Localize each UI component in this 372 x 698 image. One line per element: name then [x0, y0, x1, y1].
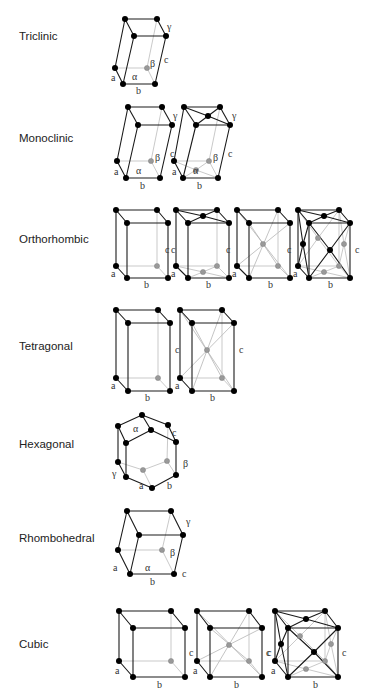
hidden-atom [200, 269, 205, 274]
atom [125, 104, 131, 110]
axis-label: a [232, 268, 237, 279]
atom [131, 33, 137, 39]
atom [116, 658, 122, 664]
atom [303, 616, 309, 622]
bravais-lattice-diagram: abαβcγabαβcγabαβcγabcabcabcabccabcabcαcγ… [0, 0, 372, 698]
axis-label: b [328, 279, 333, 290]
hidden-atom [144, 65, 149, 70]
atom [182, 625, 188, 631]
atom [171, 158, 177, 164]
atom [177, 307, 183, 313]
axis-label: b [136, 85, 141, 96]
axis-label: c [164, 54, 169, 65]
unit-cell-cubic-I: abc [193, 608, 271, 690]
axis-label: b [234, 679, 239, 690]
atom [185, 275, 191, 281]
axis-label: c [171, 244, 176, 255]
axis-label: a [139, 480, 144, 491]
hidden-atom [303, 666, 308, 671]
axis-label: β [150, 58, 155, 69]
atom [234, 207, 240, 213]
atom [246, 608, 252, 614]
atom [167, 320, 173, 326]
axis-label: c [239, 344, 244, 355]
atom [207, 625, 213, 631]
atom [278, 641, 284, 647]
atom [167, 388, 173, 394]
axis-label: β [213, 152, 218, 163]
unit-cell-tetragonal-I: abc [175, 307, 244, 403]
atom [135, 122, 141, 128]
axis-label: a [111, 380, 116, 391]
atom [246, 275, 252, 281]
hidden-atom [204, 347, 209, 352]
unit-cell-hexagonal-P: αcγβab [111, 412, 188, 491]
atom [168, 608, 174, 614]
atom [173, 439, 179, 445]
axis-label: γ [172, 110, 178, 121]
axis-label: α [136, 165, 142, 176]
hidden-atom [154, 263, 159, 268]
atom [173, 207, 179, 213]
atom [123, 440, 129, 446]
hidden-atom [159, 547, 164, 552]
atom [163, 33, 169, 39]
axis-label: a [172, 166, 177, 177]
atom [127, 571, 133, 577]
axis-label: β [155, 152, 160, 163]
atom [114, 158, 120, 164]
atom [219, 307, 225, 313]
axis-label: a [175, 380, 180, 391]
atom [327, 247, 333, 253]
atom [194, 608, 200, 614]
atom [194, 658, 200, 664]
axis-label: c [175, 344, 180, 355]
atom [155, 307, 161, 313]
atom [300, 241, 306, 247]
atom [154, 16, 160, 22]
atom [227, 122, 233, 128]
unit-cell-triclinic-P: abαβcγ [111, 16, 172, 96]
axis-label: γ [111, 468, 117, 479]
axis-label: c [172, 427, 177, 438]
atom [173, 472, 179, 478]
atom [185, 220, 191, 226]
atom [182, 674, 188, 680]
atom [124, 220, 130, 226]
axis-label: b [268, 279, 273, 290]
atom [272, 658, 278, 664]
atom [168, 508, 174, 514]
axis-label: α [133, 423, 139, 434]
hidden-atom [155, 375, 160, 380]
unit-cell-cubic-F: abcc [267, 608, 347, 690]
axis-label: b [144, 279, 149, 290]
atom [125, 320, 131, 326]
hidden-atom [168, 658, 173, 663]
hidden-atom [336, 263, 341, 268]
atom [124, 275, 130, 281]
atom [336, 207, 342, 213]
axis-label: c [189, 647, 194, 658]
atom [125, 388, 131, 394]
hidden-atom [140, 467, 145, 472]
atom [217, 104, 223, 110]
atom [347, 220, 353, 226]
atom [322, 608, 328, 614]
axis-label: a [193, 665, 198, 676]
atom [149, 485, 155, 491]
hidden-atom [219, 375, 224, 380]
atom [148, 427, 154, 433]
axis-label: a [293, 268, 298, 279]
axis-label: γ [166, 21, 172, 32]
atom [335, 674, 341, 680]
axis-label: α [132, 71, 138, 82]
axis-label: α [193, 165, 199, 176]
axis-label: a [171, 268, 176, 279]
atom [130, 625, 136, 631]
atom [287, 220, 293, 226]
axis-label: b [150, 576, 155, 587]
axis-label: b [145, 392, 150, 403]
atom [165, 220, 171, 226]
atom [152, 81, 158, 87]
axis-label: c [165, 244, 170, 255]
